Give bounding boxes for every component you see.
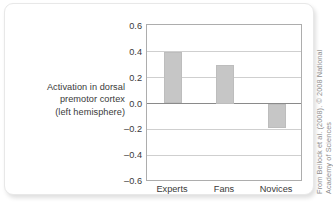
bar [268,104,286,129]
x-category-label: Fans [214,184,234,194]
y-tick-label: 0.6 [112,21,142,31]
y-tick-label: –0.2 [112,124,142,134]
credit-block: From Beilock et al. (2008). © 2008 Natio… [301,18,331,198]
plot-area [146,24,302,181]
y-tick-label: 0.0 [112,99,142,109]
y-tick-label: 0.4 [112,47,142,57]
y-axis-tick-labels: 0.60.40.20.0–0.2–0.4–0.6 [108,24,142,181]
x-axis-category-labels: ExpertsFansNovices [146,184,302,198]
bar [216,65,234,104]
bar [164,52,182,104]
y-tick-label: –0.4 [112,150,142,160]
credit-line-1: From Beilock et al. (2008). © 2008 Natio… [315,50,324,194]
bars-layer [147,25,301,180]
x-category-label: Novices [260,184,293,194]
credit-line-2: Academy of Sciences [324,122,333,194]
y-tick-label: –0.6 [112,176,142,186]
y-tick-label: 0.2 [112,73,142,83]
figure-card: Activation in dorsal premotor cortex (le… [4,3,314,195]
x-category-label: Experts [156,184,187,194]
